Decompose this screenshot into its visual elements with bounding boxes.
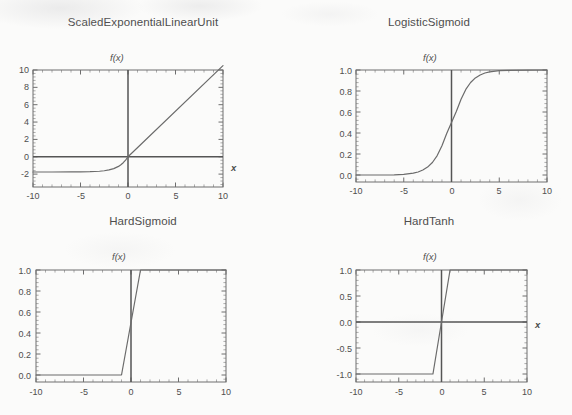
y-tick-label: 1.0 [9, 266, 31, 276]
y-tick-label: 0.0 [330, 318, 352, 328]
x-axis-label: x [535, 319, 540, 330]
panel-title: HardSigmoid [0, 215, 286, 227]
y-tick-label: 8 [9, 82, 29, 92]
x-tick-label: -5 [384, 387, 414, 397]
y-tick-label: 4 [9, 117, 29, 127]
y-tick-label: 1.0 [330, 66, 352, 76]
plot-area [356, 70, 547, 182]
y-tick-label: 0.0 [330, 171, 352, 181]
x-tick-label: 0 [113, 191, 143, 201]
y-tick-label: 0.5 [330, 292, 352, 302]
plot-panel-hardsigmoid: HardSigmoid f(x) [0, 215, 286, 415]
x-tick-label: 5 [469, 387, 499, 397]
y-axis-label: f(x) [423, 251, 437, 262]
plot-area [33, 70, 223, 187]
y-axis-label: f(x) [112, 251, 126, 262]
x-tick-label: 0 [116, 387, 146, 397]
y-tick-label: 2 [9, 134, 29, 144]
plot-svg [33, 70, 223, 187]
plot-panel-scaledexponentiallinearunit: ScaledExponentialLinearUnit f(x) x [0, 16, 286, 216]
y-tick-label: 0.4 [9, 329, 31, 339]
y-axis-label: f(x) [110, 52, 124, 63]
y-tick-label: -1.0 [324, 370, 352, 380]
y-tick-label: 0.8 [330, 87, 352, 97]
panel-title: HardTanh [286, 215, 572, 227]
x-tick-label: -5 [66, 191, 96, 201]
y-tick-label: 0.6 [330, 108, 352, 118]
plot-svg [36, 270, 226, 382]
plot-panel-hardtanh: HardTanh f(x) x [286, 215, 572, 415]
plot-panel-logisticsigmoid: LogisticSigmoid f(x) [286, 16, 572, 216]
y-tick-label: 0.8 [9, 287, 31, 297]
y-tick-label: 10 [9, 65, 29, 75]
y-tick-label: 0.4 [330, 129, 352, 139]
x-axis-label: x [231, 162, 236, 173]
x-tick-label: -10 [341, 186, 371, 196]
y-axis-label: f(x) [423, 52, 437, 63]
y-tick-label: 0.6 [9, 308, 31, 318]
x-tick-label: 5 [484, 186, 514, 196]
x-tick-label: 5 [164, 387, 194, 397]
plot-area [356, 270, 527, 382]
panel-title: ScaledExponentialLinearUnit [0, 16, 286, 28]
x-tick-label: 10 [211, 387, 241, 397]
x-tick-label: -5 [69, 387, 99, 397]
plot-area [36, 270, 226, 382]
y-tick-label: 0.0 [9, 371, 31, 381]
y-tick-label: 0.2 [330, 150, 352, 160]
x-tick-label: 10 [512, 387, 542, 397]
x-tick-label: -10 [341, 387, 371, 397]
panel-title: LogisticSigmoid [286, 16, 572, 28]
x-tick-label: 5 [161, 191, 191, 201]
x-tick-label: 0 [437, 186, 467, 196]
x-tick-label: -10 [18, 191, 48, 201]
plot-svg [356, 270, 527, 382]
y-tick-label: 6 [9, 100, 29, 110]
y-tick-label: 1.0 [330, 266, 352, 276]
y-tick-label: 0 [9, 152, 29, 162]
x-tick-label: -10 [21, 387, 51, 397]
x-tick-label: 0 [427, 387, 457, 397]
plot-svg [356, 70, 547, 182]
y-tick-label: -0.5 [324, 344, 352, 354]
y-tick-label: 0.2 [9, 350, 31, 360]
x-tick-label: -5 [389, 186, 419, 196]
y-tick-label: -2 [5, 169, 29, 179]
x-tick-label: 10 [532, 186, 562, 196]
x-tick-label: 10 [208, 191, 238, 201]
